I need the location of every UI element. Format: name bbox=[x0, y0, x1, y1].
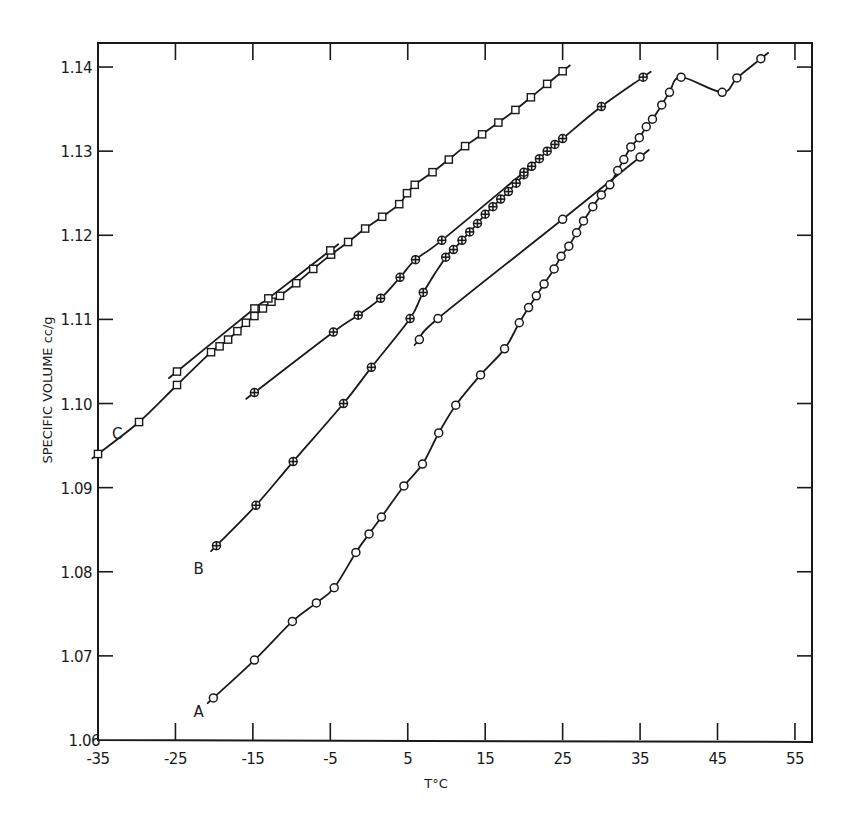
square-marker-icon bbox=[327, 247, 334, 254]
curve-a bbox=[208, 52, 769, 703]
square-marker-icon bbox=[396, 201, 403, 208]
square-marker-icon bbox=[559, 68, 566, 75]
circle-marker-icon bbox=[352, 548, 360, 556]
circle-marker-icon bbox=[550, 265, 558, 273]
circle-marker-icon bbox=[365, 530, 373, 538]
circle-marker-icon bbox=[477, 371, 485, 379]
y-tick-label: 1.12 bbox=[61, 227, 92, 245]
circle-marker-icon bbox=[648, 115, 656, 123]
x-tick-label: 25 bbox=[554, 750, 572, 768]
circle-marker-icon bbox=[589, 203, 597, 211]
circle-marker-icon bbox=[435, 429, 443, 437]
square-marker-icon bbox=[242, 319, 249, 326]
circle-marker-icon bbox=[557, 252, 565, 260]
circle-marker-icon bbox=[501, 345, 509, 353]
circle-marker-icon bbox=[620, 156, 628, 164]
square-marker-icon bbox=[234, 328, 241, 335]
square-marker-icon bbox=[445, 156, 452, 163]
circle-marker-icon bbox=[250, 656, 258, 664]
circle-marker-icon bbox=[209, 694, 217, 702]
axes: -35-25-15-5515253545551.061.071.081.091.… bbox=[61, 43, 812, 768]
x-tick-label: 15 bbox=[476, 750, 494, 768]
square-marker-icon bbox=[512, 106, 519, 113]
y-tick-label: 1.07 bbox=[61, 648, 92, 666]
circle-marker-icon bbox=[559, 215, 567, 223]
y-tick-label: 1.11 bbox=[61, 311, 92, 329]
circle-marker-icon bbox=[635, 134, 643, 142]
square-marker-icon bbox=[251, 305, 258, 312]
square-marker-icon bbox=[544, 80, 551, 87]
circle-marker-icon bbox=[718, 88, 726, 96]
x-tick-label: -25 bbox=[164, 750, 187, 768]
circle-marker-icon bbox=[565, 242, 573, 250]
curve-labels: ABC bbox=[112, 425, 204, 721]
circle-marker-icon bbox=[418, 460, 426, 468]
square-marker-icon bbox=[403, 190, 410, 197]
square-marker-icon bbox=[224, 336, 231, 343]
circle-marker-icon bbox=[606, 181, 614, 189]
circle-marker-icon bbox=[642, 123, 650, 131]
circle-marker-icon bbox=[377, 513, 385, 521]
circle-marker-icon bbox=[677, 73, 685, 81]
circle-marker-icon bbox=[614, 167, 622, 175]
circle-marker-icon bbox=[636, 153, 644, 161]
square-marker-icon bbox=[411, 181, 418, 188]
y-tick-label: 1.08 bbox=[61, 564, 92, 582]
square-marker-icon bbox=[276, 292, 283, 299]
circle-marker-icon bbox=[532, 292, 540, 300]
square-marker-icon bbox=[345, 238, 352, 245]
circle-marker-icon bbox=[288, 617, 296, 625]
circle-marker-icon bbox=[540, 280, 548, 288]
square-marker-icon bbox=[527, 94, 534, 101]
square-marker-icon bbox=[293, 280, 300, 287]
x-tick-label: 35 bbox=[631, 750, 649, 768]
plot-markers bbox=[94, 55, 764, 702]
square-marker-icon bbox=[216, 343, 223, 350]
x-tick-label: 45 bbox=[708, 750, 726, 768]
circle-marker-icon bbox=[400, 482, 408, 490]
x-tick-label: -35 bbox=[87, 750, 110, 768]
square-marker-icon bbox=[379, 213, 386, 220]
square-marker-icon bbox=[265, 295, 272, 302]
y-tick-label: 1.13 bbox=[61, 143, 92, 161]
square-marker-icon bbox=[362, 225, 369, 232]
square-marker-icon bbox=[259, 305, 266, 312]
circle-marker-icon bbox=[312, 599, 320, 607]
square-marker-icon bbox=[94, 450, 101, 457]
y-tick-label: 1.14 bbox=[61, 59, 92, 77]
curve-label-c: C bbox=[112, 425, 122, 443]
circle-marker-icon bbox=[415, 336, 423, 344]
y-tick-label: 1.10 bbox=[61, 396, 92, 414]
y-tick-label: 1.09 bbox=[61, 480, 92, 498]
circle-marker-icon bbox=[757, 55, 765, 63]
circle-marker-icon bbox=[627, 143, 635, 151]
square-marker-icon bbox=[479, 131, 486, 138]
square-marker-icon bbox=[251, 312, 258, 319]
specific-volume-chart: -35-25-15-5515253545551.061.071.081.091.… bbox=[0, 0, 858, 820]
x-tick-label: 5 bbox=[403, 750, 412, 768]
circle-marker-icon bbox=[525, 304, 533, 312]
curve-label-b: B bbox=[194, 560, 204, 578]
circle-marker-icon bbox=[434, 315, 442, 323]
circle-marker-icon bbox=[515, 319, 523, 327]
square-marker-icon bbox=[173, 368, 180, 375]
x-tick-label: 55 bbox=[786, 750, 804, 768]
circle-marker-icon bbox=[597, 191, 605, 199]
plot-curves bbox=[92, 52, 769, 703]
x-tick-label: -15 bbox=[241, 750, 264, 768]
square-marker-icon bbox=[135, 418, 142, 425]
x-tick-label: -5 bbox=[323, 750, 337, 768]
square-marker-icon bbox=[429, 169, 436, 176]
square-marker-icon bbox=[495, 119, 502, 126]
square-marker-icon bbox=[310, 265, 317, 272]
square-marker-icon bbox=[461, 143, 468, 150]
y-tick-label: 1.06 bbox=[69, 732, 100, 750]
circle-marker-icon bbox=[330, 584, 338, 592]
x-axis-title: T°C bbox=[423, 776, 448, 791]
curve-b bbox=[211, 71, 651, 551]
circle-marker-icon bbox=[658, 101, 666, 109]
y-axis-title: SPECIFIC VOLUME cc/g bbox=[40, 316, 55, 463]
curve-label-a: A bbox=[194, 703, 205, 721]
circle-marker-icon bbox=[733, 74, 741, 82]
circle-marker-icon bbox=[666, 88, 674, 96]
